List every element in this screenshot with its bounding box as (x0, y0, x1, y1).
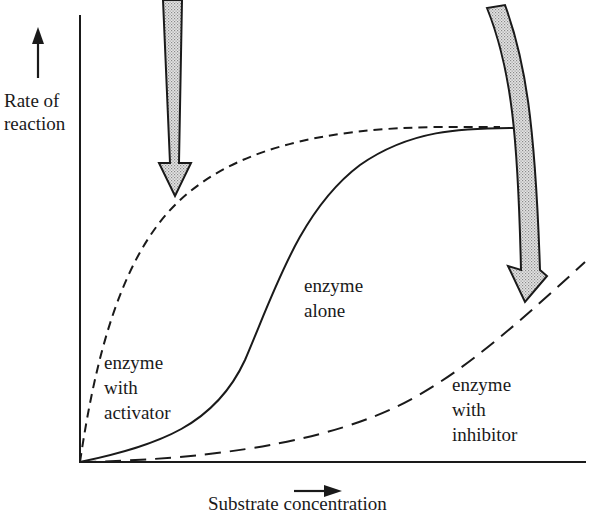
annotation-line: with (104, 375, 170, 400)
annotation-line: enzyme (452, 372, 517, 397)
annotation-enzyme-with-activator: enzyme with activator (104, 350, 170, 425)
annotation-line: enzyme (104, 350, 170, 375)
up-arrow-icon (32, 27, 44, 78)
y-axis-label-line1: Rate of (4, 89, 65, 112)
enzyme-kinetics-figure: Rate of reaction Substrate concentration… (0, 0, 590, 522)
annotation-line: activator (104, 400, 170, 425)
activator-shift-arrow-icon (159, 0, 191, 196)
annotation-line: alone (304, 298, 363, 323)
y-axis-label: Rate of reaction (4, 89, 65, 135)
annotation-line: with (452, 397, 517, 422)
inhibitor-shift-arrow-icon (487, 5, 547, 302)
annotation-line: inhibitor (452, 422, 517, 447)
annotation-enzyme-with-inhibitor: enzyme with inhibitor (452, 372, 517, 447)
y-axis-label-line2: reaction (4, 112, 65, 135)
annotation-line: enzyme (304, 273, 363, 298)
annotation-enzyme-alone: enzyme alone (304, 273, 363, 323)
x-axis-label: Substrate concentration (208, 492, 387, 515)
